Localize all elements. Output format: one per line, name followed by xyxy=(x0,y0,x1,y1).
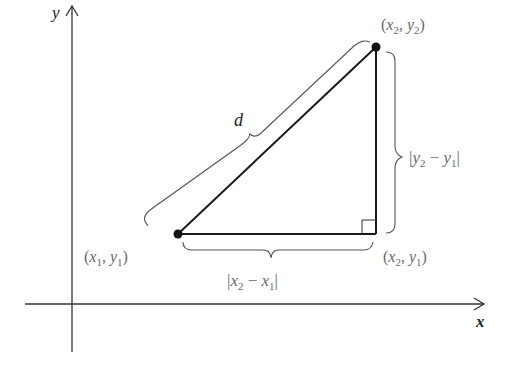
hypotenuse xyxy=(178,47,376,234)
vertical-length-label: |y2 − y1| xyxy=(409,148,460,169)
horizontal-brace-icon xyxy=(183,242,373,258)
right-triangle xyxy=(178,47,376,234)
point-p1-dot xyxy=(174,230,183,239)
point-p1-label: (x1, y1) xyxy=(84,248,128,268)
x-axis-label: x xyxy=(475,312,485,331)
point-p2-label: (x2, y2) xyxy=(381,16,425,36)
point-p2-dot xyxy=(372,43,381,52)
right-angle-marker-icon xyxy=(362,220,376,234)
vertical-brace-icon xyxy=(386,52,402,233)
axes xyxy=(25,6,484,352)
hypotenuse-brace-icon xyxy=(144,41,370,226)
corner-point-label: (x2, y1) xyxy=(383,248,427,268)
y-axis-label: y xyxy=(50,3,60,22)
horizontal-length-label: |x2 − x1| xyxy=(227,271,278,292)
distance-label: d xyxy=(234,110,244,130)
distance-formula-diagram: x y d (x2, y2) (x1, y1) (x2, y1) |x2 − x… xyxy=(0,0,520,372)
